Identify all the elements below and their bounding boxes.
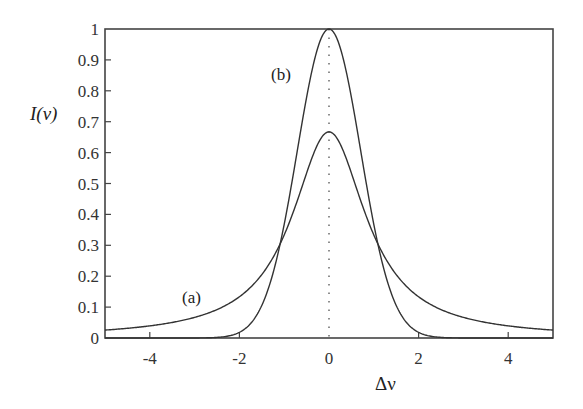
y-tick-label: 0.8 <box>78 82 99 101</box>
curve-a-label: (a) <box>182 288 201 307</box>
y-tick-label: 0.6 <box>78 144 99 163</box>
line-chart: 00.10.20.30.40.50.60.70.80.91 -4-2024 (a… <box>0 0 583 409</box>
x-tick-label: 2 <box>414 349 423 368</box>
x-tick-label: -4 <box>143 349 158 368</box>
y-tick-label: 0.2 <box>78 267 99 286</box>
y-axis-label: I(ν) <box>29 103 57 125</box>
y-tick-label: 0 <box>91 329 100 348</box>
y-tick-label: 0.7 <box>78 113 100 132</box>
y-tick-label: 0.4 <box>78 205 100 224</box>
x-axis-label: Δν <box>375 373 396 394</box>
y-axis-ticks: 00.10.20.30.40.50.60.70.80.91 <box>78 20 111 348</box>
y-tick-label: 0.3 <box>78 236 99 255</box>
x-tick-label: 0 <box>325 349 334 368</box>
y-tick-label: 0.5 <box>78 175 99 194</box>
y-tick-label: 1 <box>91 20 100 39</box>
curve-a-lorentzian <box>105 132 553 330</box>
x-tick-label: -2 <box>232 349 246 368</box>
y-tick-label: 0.9 <box>78 51 99 70</box>
x-tick-label: 4 <box>504 349 513 368</box>
y-tick-label: 0.1 <box>78 298 99 317</box>
curve-b-label: (b) <box>271 65 291 84</box>
